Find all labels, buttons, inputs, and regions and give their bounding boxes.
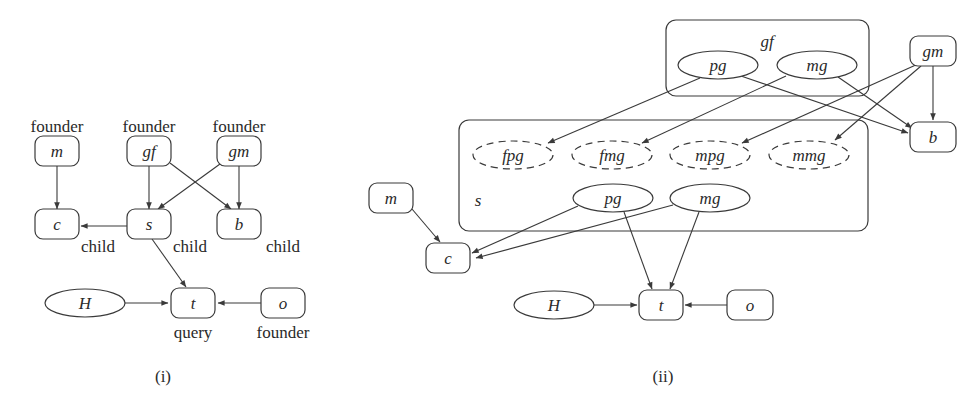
node-label: b bbox=[235, 215, 244, 234]
edge-arrow bbox=[412, 209, 440, 242]
panel-ii-expanded-graph: gfspgmggmbfpgfmgmpgmmgpgmgmcHto(ii) bbox=[369, 20, 956, 386]
edge-arrow bbox=[835, 66, 921, 140]
node-mg-s: mg bbox=[670, 184, 750, 212]
node-role-label: founder bbox=[257, 323, 310, 342]
node-role-label: founder bbox=[31, 117, 84, 136]
cluster-label: gf bbox=[760, 32, 776, 51]
node-pg-gf: pg bbox=[678, 51, 758, 79]
node-label: b bbox=[929, 128, 938, 147]
node-label: mpg bbox=[695, 146, 724, 165]
edge-arrow bbox=[741, 76, 908, 133]
node-label: H bbox=[547, 296, 562, 315]
diagram-canvas: mfoundergffoundergmfoundercchildschildbc… bbox=[0, 0, 979, 405]
node-b: b bbox=[910, 122, 956, 152]
edge-arrow bbox=[472, 206, 578, 253]
node-label: gm bbox=[923, 42, 944, 61]
node-label: o bbox=[746, 296, 755, 315]
node-gm: gmfounder bbox=[213, 117, 266, 166]
node-role-label: query bbox=[174, 323, 213, 342]
edge-arrow bbox=[670, 212, 699, 289]
node-mmg: mmg bbox=[769, 141, 849, 169]
node-label: m bbox=[51, 142, 63, 161]
node-s: schild bbox=[127, 209, 207, 256]
node-role-label: founder bbox=[213, 117, 266, 136]
cluster-s-cluster bbox=[459, 120, 868, 231]
node-label: o bbox=[279, 294, 288, 313]
node-m: m bbox=[369, 183, 413, 213]
edge-arrow bbox=[624, 212, 652, 289]
node-role-label: child bbox=[81, 237, 115, 256]
node-fmg: fmg bbox=[572, 141, 652, 169]
edge-arrow bbox=[170, 163, 231, 209]
node-o: ofounder bbox=[257, 288, 310, 342]
node-o: o bbox=[727, 290, 773, 320]
node-label: fpg bbox=[502, 146, 524, 165]
node-mpg: mpg bbox=[670, 141, 750, 169]
node-H: H bbox=[45, 289, 125, 317]
node-gf: gffounder bbox=[123, 117, 176, 166]
node-c: c bbox=[426, 243, 470, 273]
node-label: mg bbox=[807, 56, 828, 75]
node-pg-s: pg bbox=[573, 184, 653, 212]
node-label: s bbox=[146, 215, 153, 234]
node-label: gf bbox=[142, 142, 158, 161]
node-m: mfounder bbox=[31, 117, 84, 166]
edge-arrow bbox=[158, 164, 220, 209]
node-b: bchild bbox=[217, 209, 300, 256]
panel-caption: (i) bbox=[155, 367, 171, 386]
node-t: tquery bbox=[171, 288, 215, 342]
node-label: mmg bbox=[792, 146, 825, 165]
node-label: m bbox=[385, 189, 397, 208]
node-label: c bbox=[53, 215, 61, 234]
node-H: H bbox=[514, 291, 594, 319]
cluster-label: s bbox=[475, 191, 482, 210]
node-t: t bbox=[639, 290, 683, 320]
node-label: c bbox=[444, 249, 452, 268]
node-label: pg bbox=[604, 189, 622, 208]
node-gm: gm bbox=[910, 36, 956, 66]
panel-caption: (ii) bbox=[653, 367, 674, 386]
panel-i-pedigree-graph: mfoundergffoundergmfoundercchildschildbc… bbox=[31, 117, 310, 386]
node-label: mg bbox=[700, 189, 721, 208]
node-role-label: child bbox=[173, 237, 207, 256]
node-mg-gf: mg bbox=[777, 51, 857, 79]
edge-arrow bbox=[548, 78, 700, 143]
node-role-label: founder bbox=[123, 117, 176, 136]
node-fpg: fpg bbox=[473, 141, 553, 169]
node-role-label: child bbox=[266, 237, 300, 256]
node-label: gm bbox=[229, 142, 250, 161]
node-c: cchild bbox=[35, 209, 115, 256]
node-label: pg bbox=[709, 56, 727, 75]
node-label: H bbox=[78, 294, 93, 313]
node-label: fmg bbox=[599, 146, 625, 165]
